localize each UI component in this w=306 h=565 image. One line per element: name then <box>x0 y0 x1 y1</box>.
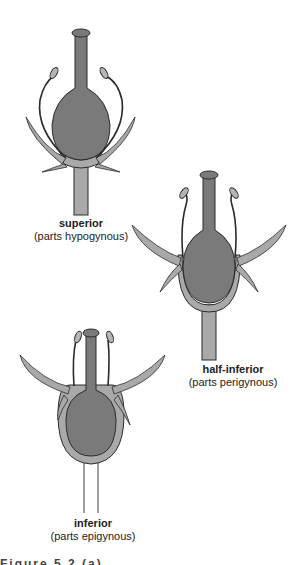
half-inferior-subtitle: (parts perigynous) <box>168 376 298 389</box>
half-inferior-label: half-inferior (parts perigynous) <box>168 363 298 389</box>
half-inferior-flower-diagram <box>132 171 286 360</box>
inferior-subtitle: (parts epigynous) <box>33 530 153 543</box>
superior-title: superior <box>21 217 141 230</box>
inferior-label: inferior (parts epigynous) <box>33 517 153 543</box>
superior-flower-diagram <box>26 29 135 215</box>
superior-label: superior (parts hypogynous) <box>21 217 141 243</box>
half-inferior-title: half-inferior <box>168 363 298 376</box>
inferior-flower-diagram <box>20 329 165 513</box>
figure-caption-cropped: Figure 5.2 (a) <box>0 557 103 565</box>
inferior-title: inferior <box>33 517 153 530</box>
flower-diagrams: .ov { fill: #7a7a7a; stroke: #2b2b2b; st… <box>0 0 306 565</box>
superior-subtitle: (parts hypogynous) <box>21 230 141 243</box>
